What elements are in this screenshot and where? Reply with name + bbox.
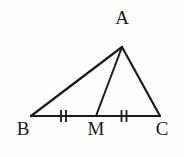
vertex-label-m: M	[78, 119, 114, 138]
vertex-label-a: A	[104, 8, 140, 27]
side-ac-line	[122, 47, 160, 116]
vertex-label-c: C	[144, 119, 180, 138]
geometry-figure: A B M C	[0, 0, 184, 157]
vertex-label-b: B	[5, 119, 41, 138]
triangle-outline	[31, 47, 160, 116]
